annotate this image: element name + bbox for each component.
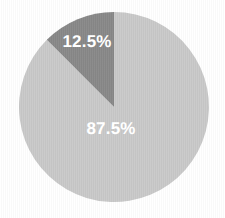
- pie-chart-canvas: [0, 0, 225, 218]
- pie-chart-figure: 12.5% 87.5%: [0, 0, 225, 218]
